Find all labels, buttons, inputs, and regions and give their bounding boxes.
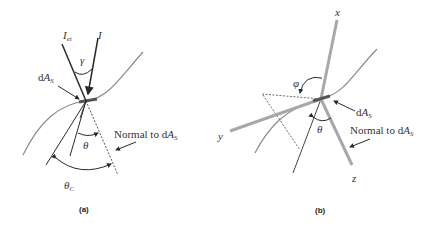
label-y: y — [218, 131, 223, 142]
label-normal: Normal to dAS — [114, 129, 177, 142]
z-axis — [321, 99, 352, 165]
label-phi: φ — [293, 78, 299, 89]
caption-a: (a) — [79, 206, 89, 214]
figure: Iei I γ dAS θ θC Normal to dAS (a) x y z… — [0, 0, 430, 226]
incident-line-i — [88, 38, 98, 94]
caption-b: (b) — [315, 207, 325, 215]
y-axis — [230, 99, 321, 131]
normal-pointer — [350, 139, 370, 147]
projection-dashed-h — [262, 94, 321, 99]
label-das: dAS — [38, 72, 54, 85]
surface-patch — [79, 99, 97, 102]
theta-c-ray — [46, 101, 86, 165]
theta-c-arc — [56, 158, 111, 170]
label-normal: Normal to dAS — [350, 125, 413, 138]
gamma-arc — [75, 69, 92, 74]
das-pointer — [58, 86, 79, 99]
label-theta-c: θC — [64, 180, 74, 193]
phi-arc — [300, 77, 322, 93]
x-axis — [321, 20, 337, 99]
label-das: dAS — [356, 107, 372, 120]
label-theta: θ — [83, 140, 88, 151]
das-pointer — [334, 101, 355, 111]
normal-pointer — [116, 142, 136, 150]
label-x: x — [335, 7, 340, 18]
panel-b-drawing — [230, 20, 377, 173]
projection-dashed-d — [263, 95, 300, 150]
label-z: z — [352, 173, 356, 184]
label-theta: θ — [317, 124, 322, 135]
theta-arc — [78, 133, 98, 136]
label-i: I — [98, 30, 102, 41]
incident-line-ei — [62, 44, 86, 101]
label-i-ei: Iei — [63, 30, 72, 43]
direction-ray — [293, 99, 321, 173]
label-gamma: γ — [80, 55, 84, 66]
